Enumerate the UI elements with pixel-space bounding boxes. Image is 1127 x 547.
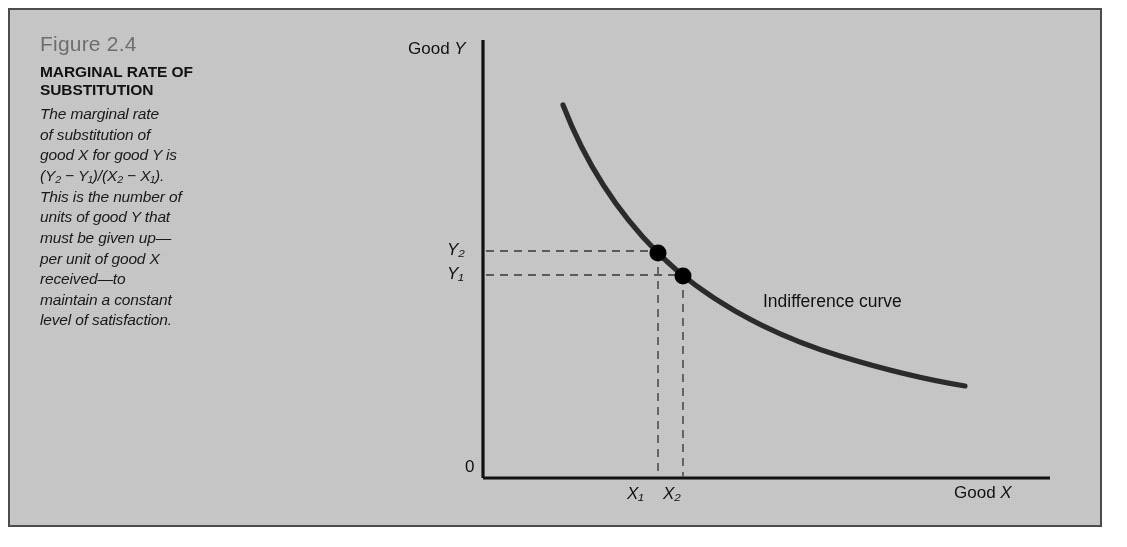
- curve-point-b: [675, 268, 692, 285]
- caption-line: units of good Y that: [40, 207, 250, 228]
- figure-title-line-2: SUBSTITUTION: [40, 81, 250, 99]
- caption-line: per unit of good X: [40, 249, 250, 270]
- figure-number: Figure 2.4: [40, 32, 250, 56]
- y-tick-label-y2: Y₂: [447, 240, 465, 260]
- figure-caption-text: The marginal rate of substitution of goo…: [40, 104, 250, 331]
- caption-line-formula: (Y₂ − Y₁)/(X₂ − X₁).: [40, 166, 250, 187]
- x-tick-label-x1: X₁: [627, 484, 644, 504]
- caption-line: good X for good Y is: [40, 145, 250, 166]
- figure-caption-block: Figure 2.4 MARGINAL RATE OF SUBSTITUTION…: [40, 32, 250, 331]
- caption-line: maintain a constant: [40, 290, 250, 311]
- caption-line: The marginal rate: [40, 104, 250, 125]
- caption-line: must be given up—: [40, 228, 250, 249]
- indifference-curve-label: Indifference curve: [763, 291, 902, 312]
- indifference-curve: [563, 105, 965, 386]
- figure-title: MARGINAL RATE OF SUBSTITUTION: [40, 63, 250, 99]
- y-tick-label-y1: Y₁: [447, 264, 464, 284]
- y-axis-label-variable: Y: [454, 39, 465, 58]
- x-tick-label-x2: X₂: [663, 484, 681, 504]
- origin-label: 0: [465, 457, 474, 477]
- x-axis-label-variable: X: [1000, 483, 1011, 502]
- caption-line: received—to: [40, 269, 250, 290]
- curve-point-a: [650, 245, 667, 262]
- figure-root: Figure 2.4 MARGINAL RATE OF SUBSTITUTION…: [0, 0, 1127, 547]
- figure-title-line-1: MARGINAL RATE OF: [40, 63, 250, 81]
- figure-frame: Figure 2.4 MARGINAL RATE OF SUBSTITUTION…: [8, 8, 1102, 527]
- caption-line: of substitution of: [40, 125, 250, 146]
- y-axis-label: Good Y: [408, 39, 466, 59]
- caption-line: level of satisfaction.: [40, 310, 250, 331]
- x-axis-label: Good X: [954, 483, 1012, 503]
- caption-line: This is the number of: [40, 187, 250, 208]
